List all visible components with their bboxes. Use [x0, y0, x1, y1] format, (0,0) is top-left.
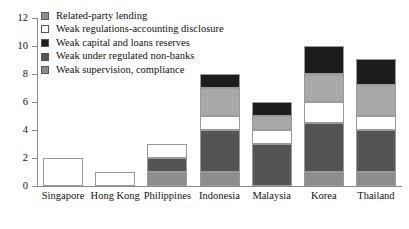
legend-item[interactable]: Related-party lending	[41, 9, 224, 23]
bar-segment[interactable]	[252, 102, 292, 116]
legend-item[interactable]: Weak supervision, compliance	[41, 63, 224, 77]
bar-segment[interactable]	[356, 59, 396, 86]
stacked-bar-chart: 024681012 SingaporeHong KongPhilippinesI…	[0, 0, 409, 229]
legend-item[interactable]: Weak regulations-accounting disclosure	[41, 23, 224, 37]
y-tick-mark	[32, 186, 37, 187]
legend-swatch-icon	[41, 66, 49, 74]
bar-segment[interactable]	[147, 144, 187, 158]
bar-segment[interactable]	[147, 158, 187, 172]
y-tick-label: 10	[4, 41, 28, 52]
bar-segment[interactable]	[252, 144, 292, 186]
category-label-thailand: Thailand	[350, 190, 402, 202]
bar-korea[interactable]	[304, 18, 344, 186]
y-tick-label: 6	[4, 97, 28, 108]
y-tick-label: 4	[4, 125, 28, 136]
category-label-indonesia: Indonesia	[193, 190, 245, 202]
bar-segment[interactable]	[252, 116, 292, 130]
bar-segment[interactable]	[200, 88, 240, 116]
bar-segment[interactable]	[43, 158, 83, 186]
category-label-malaysia: Malaysia	[246, 190, 298, 202]
y-tick-label: 12	[4, 13, 28, 24]
bar-thailand[interactable]	[356, 18, 396, 186]
category-label-philippines: Philippines	[141, 190, 193, 202]
legend-label: Weak regulations-accounting disclosure	[56, 24, 224, 35]
bar-segment[interactable]	[356, 172, 396, 186]
bar-segment[interactable]	[304, 172, 344, 186]
chart-legend: Related-party lendingWeak regulations-ac…	[41, 9, 224, 77]
bar-segment[interactable]	[252, 130, 292, 144]
legend-label: Weak capital and loans reserves	[56, 38, 190, 49]
bar-segment[interactable]	[200, 116, 240, 130]
category-label-singapore: Singapore	[37, 190, 89, 202]
y-tick-label: 0	[4, 181, 28, 192]
bar-segment[interactable]	[95, 172, 135, 186]
legend-swatch-icon	[41, 25, 49, 33]
legend-label: Weak supervision, compliance	[56, 65, 184, 76]
legend-swatch-icon	[41, 39, 49, 47]
bar-segment[interactable]	[200, 172, 240, 186]
legend-swatch-icon	[41, 53, 49, 61]
bar-segment[interactable]	[304, 46, 344, 74]
bar-segment[interactable]	[304, 123, 344, 172]
y-tick-label: 2	[4, 153, 28, 164]
bar-segment[interactable]	[147, 172, 187, 186]
x-axis-line	[37, 186, 402, 187]
bar-segment[interactable]	[304, 102, 344, 123]
y-tick-label: 8	[4, 69, 28, 80]
legend-item[interactable]: Weak capital and loans reserves	[41, 36, 224, 50]
legend-label: Related-party lending	[56, 11, 147, 22]
bar-segment[interactable]	[356, 85, 396, 116]
category-label-hong-kong: Hong Kong	[89, 190, 141, 202]
bar-segment[interactable]	[356, 130, 396, 172]
bar-segment[interactable]	[304, 74, 344, 102]
category-label-korea: Korea	[298, 190, 350, 202]
legend-label: Weak under regulated non-banks	[56, 51, 194, 62]
legend-item[interactable]: Weak under regulated non-banks	[41, 50, 224, 64]
bar-segment[interactable]	[356, 116, 396, 130]
bar-segment[interactable]	[200, 130, 240, 172]
legend-swatch-icon	[41, 12, 49, 20]
bar-malaysia[interactable]	[252, 18, 292, 186]
